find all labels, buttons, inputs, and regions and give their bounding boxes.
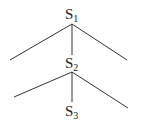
- node-s3: S3: [65, 104, 78, 121]
- edge-s1-left: [10, 24, 72, 60]
- edge-s2-left: [14, 72, 72, 97]
- node-s1: S1: [65, 7, 78, 24]
- edge-s1-right: [72, 24, 127, 60]
- node-s2: S2: [65, 56, 78, 73]
- edge-s2-right: [72, 72, 128, 108]
